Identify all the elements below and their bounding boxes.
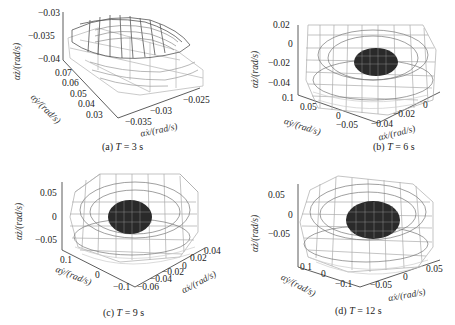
y-tick: 0.05 <box>70 89 87 99</box>
y-tick: −0.1 <box>113 282 130 292</box>
wireframe-plot-a <box>0 0 227 162</box>
x-tick: −0.04 <box>371 119 393 129</box>
panel-d: 0.05 0 −0.05 0.1 0 −0.1 −0.05 0 0.05 α̇z… <box>228 162 455 324</box>
z-tick: 0 <box>288 210 293 220</box>
z-tick: 0.02 <box>273 20 290 30</box>
z-axis-label: α̇z/(rad/s) <box>250 51 260 88</box>
y-tick: 0.1 <box>300 262 312 272</box>
x-tick: −0.025 <box>183 95 210 105</box>
y-tick: −0.05 <box>336 120 358 130</box>
z-tick: −0.03 <box>38 8 60 18</box>
z-tick: 0 <box>288 39 293 49</box>
z-tick: −0.05 <box>268 229 290 239</box>
x-tick: 0 <box>423 100 428 110</box>
caption-d: (d) T = 12 s <box>335 305 382 316</box>
x-tick: 0 <box>182 261 187 271</box>
y-tick: 0.07 <box>55 68 72 78</box>
z-tick: −0.02 <box>268 58 290 68</box>
z-tick: 0.05 <box>40 188 57 198</box>
z-tick: 0 <box>52 212 57 222</box>
x-tick: −0.02 <box>393 109 415 119</box>
wireframe-plot-d <box>228 162 455 324</box>
x-tick: −0.05 <box>370 280 392 290</box>
z-tick: −0.035 <box>28 31 55 41</box>
panel-a: −0.03 −0.035 −0.04 0.07 0.06 0.05 0.04 0… <box>0 0 227 162</box>
caption-b: (b) T = 6 s <box>373 141 415 152</box>
y-tick: 0.06 <box>62 78 79 88</box>
caption-a: (a) T = 3 s <box>102 141 143 152</box>
y-tick: 0.05 <box>300 102 317 112</box>
core-ellipsoid <box>354 48 398 76</box>
z-tick: −0.04 <box>38 54 60 64</box>
caption-c: (c) T = 9 s <box>103 307 144 318</box>
x-tick: −0.03 <box>150 106 172 116</box>
wireframe-plot-b <box>228 0 455 162</box>
y-tick: 0.04 <box>78 99 95 109</box>
z-tick: −0.05 <box>35 235 57 245</box>
panel-b: 0.02 0 −0.02 −0.04 0.1 0.05 0 −0.05 −0.0… <box>228 0 455 162</box>
y-tick: 0.03 <box>86 110 103 120</box>
x-tick: 0.05 <box>426 264 443 274</box>
x-tick: 0.04 <box>204 246 221 256</box>
z-tick: −0.04 <box>268 78 290 88</box>
y-tick: 0 <box>321 269 326 279</box>
panel-c: 0.05 0 −0.05 0.1 0 −0.1 −0.06 −0.04 −0.0… <box>0 162 227 324</box>
y-tick: 0.1 <box>282 93 294 103</box>
z-axis-label: α̇z/(rad/s) <box>250 215 260 252</box>
x-tick: 0 <box>403 272 408 282</box>
z-axis-label: α̇z/(rad/s) <box>14 203 24 240</box>
core-ellipsoid <box>108 200 152 234</box>
x-tick: −0.02 <box>162 267 184 277</box>
x-tick: −0.035 <box>125 117 152 127</box>
z-tick: 0.05 <box>268 190 285 200</box>
z-axis-label: α̇z/(rad/s) <box>12 43 22 80</box>
y-tick: −0.1 <box>335 279 352 289</box>
y-tick: 0.1 <box>60 255 72 265</box>
y-tick: 0 <box>95 270 100 280</box>
